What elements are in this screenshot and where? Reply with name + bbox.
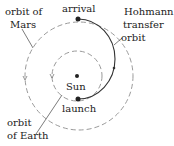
earth-label-leader — [36, 95, 62, 134]
mars-orbit-label: orbit of — [5, 6, 44, 17]
launch-point — [76, 97, 81, 102]
hohmann-label-2: transfer — [123, 19, 164, 30]
sun-point — [75, 74, 79, 78]
earth-orbit-arrow-icon — [50, 74, 54, 78]
mars-label-leader — [22, 29, 33, 48]
hohmann-diagram: orbit of Mars arrival Hohmann transfer o… — [0, 0, 174, 146]
sun-label: Sun — [66, 81, 86, 92]
earth-orbit-label-2: of Earth — [7, 130, 49, 141]
arrival-point — [76, 17, 81, 22]
launch-label: launch — [62, 103, 97, 114]
hohmann-label: Hohmann — [124, 6, 174, 17]
mars-orbit-label-2: Mars — [10, 19, 36, 30]
earth-orbit-label: orbit — [7, 117, 31, 128]
hohmann-label-3: orbit — [121, 32, 145, 43]
transfer-arrow-icon — [113, 67, 116, 70]
arrival-label: arrival — [62, 3, 96, 14]
